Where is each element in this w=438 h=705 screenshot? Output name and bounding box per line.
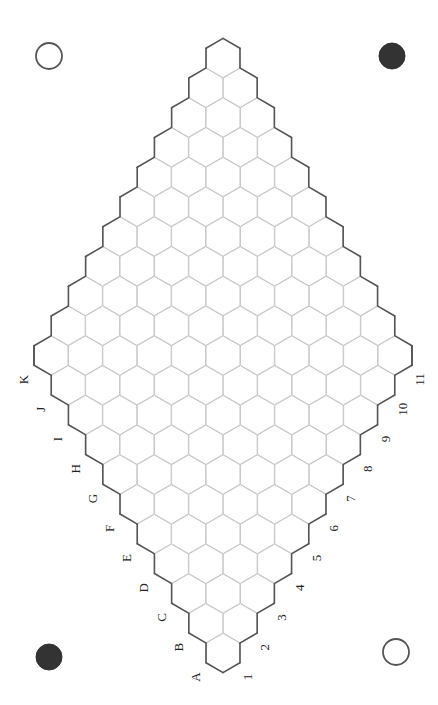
- column-label-4: 4: [292, 584, 307, 591]
- top-right-marker-filled-circle-icon: [379, 43, 405, 69]
- row-label-I: I: [50, 437, 65, 441]
- column-label-11: 11: [412, 373, 427, 386]
- column-label-10: 10: [395, 403, 410, 416]
- column-label-3: 3: [274, 614, 289, 621]
- column-label-9: 9: [378, 436, 393, 443]
- row-label-J: J: [33, 407, 48, 412]
- board-cells: [34, 38, 412, 672]
- row-label-E: E: [119, 554, 134, 562]
- row-label-H: H: [68, 464, 83, 473]
- bottom-left-marker-filled-circle-icon: [36, 644, 62, 670]
- row-label-F: F: [102, 525, 117, 532]
- row-label-A: A: [188, 672, 203, 682]
- row-label-B: B: [171, 643, 186, 652]
- column-label-7: 7: [343, 495, 358, 502]
- row-label-G: G: [85, 494, 100, 503]
- row-label-K: K: [16, 374, 31, 384]
- row-label-C: C: [154, 613, 169, 622]
- column-label-6: 6: [326, 525, 341, 532]
- hex-board: ABCDEFGHIJK1234567891011: [0, 0, 438, 705]
- bottom-right-marker-hollow-circle-icon: [383, 639, 409, 665]
- row-label-D: D: [136, 583, 151, 592]
- column-label-2: 2: [257, 644, 272, 651]
- column-label-5: 5: [309, 555, 324, 562]
- column-label-8: 8: [360, 466, 375, 473]
- column-label-1: 1: [240, 674, 255, 681]
- top-left-marker-hollow-circle-icon: [36, 43, 62, 69]
